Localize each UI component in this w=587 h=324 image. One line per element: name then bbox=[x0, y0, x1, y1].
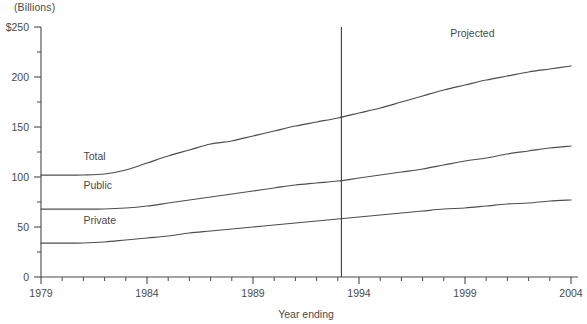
x-tick-label: 2004 bbox=[559, 287, 583, 299]
y-tick-label: 0 bbox=[23, 271, 29, 283]
chart-root: (Billions) 050100150200$250 197919841989… bbox=[0, 0, 587, 324]
x-tick-label: 1999 bbox=[453, 287, 477, 299]
x-tick-label: 1989 bbox=[241, 287, 265, 299]
series-line-public bbox=[41, 146, 571, 209]
y-axis: 050100150200$250 bbox=[6, 21, 41, 283]
y-axis-unit-label: (Billions) bbox=[14, 1, 55, 13]
series-line-total bbox=[41, 66, 571, 175]
projected-label: Projected bbox=[450, 27, 495, 39]
x-axis: 197919841989199419992004 bbox=[29, 277, 583, 299]
y-tick-label: 150 bbox=[11, 121, 29, 133]
series-label-total: Total bbox=[83, 150, 105, 162]
y-tick-label: 200 bbox=[11, 71, 29, 83]
series-label-public: Public bbox=[83, 179, 112, 191]
chart-title-clipped bbox=[0, 0, 587, 3]
y-tick-label: 100 bbox=[11, 171, 29, 183]
x-axis-title: Year ending bbox=[278, 308, 334, 320]
series-lines bbox=[41, 66, 571, 243]
x-tick-label: 1979 bbox=[29, 287, 53, 299]
line-chart: 050100150200$250 19791984198919941999200… bbox=[0, 0, 587, 324]
series-line-private bbox=[41, 200, 571, 243]
series-labels: TotalPublicPrivate bbox=[83, 150, 116, 226]
y-tick-label: 50 bbox=[17, 221, 29, 233]
series-label-private: Private bbox=[83, 214, 116, 226]
x-tick-label: 1984 bbox=[135, 287, 159, 299]
x-tick-label: 1994 bbox=[347, 287, 371, 299]
annotations: Projected bbox=[341, 27, 494, 277]
y-tick-label: $250 bbox=[6, 21, 30, 33]
